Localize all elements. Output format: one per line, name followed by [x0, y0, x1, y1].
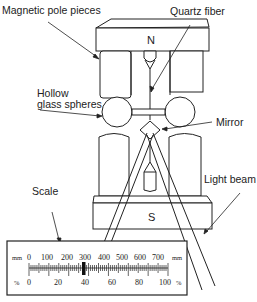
mirror-icon [140, 121, 160, 139]
mm-tick-400: 400 [98, 253, 110, 262]
scale-panel: mm mm % % 0 100 200 300 400 500 600 700 … [7, 241, 187, 295]
upper-left-pole-piece [100, 51, 131, 98]
mm-tick-300: 300 [79, 253, 91, 262]
mm-tick-100: 100 [41, 253, 53, 262]
pointer-scale [52, 212, 59, 240]
sphere-connecting-bar [132, 109, 165, 115]
label-north-pole: N [147, 34, 155, 46]
lower-right-pole-piece [169, 134, 201, 197]
mm-tick-600: 600 [134, 253, 146, 262]
light-spot-indicator [82, 262, 86, 275]
label-scale: Scale [32, 185, 58, 197]
scale-unit-mm-right: mm [172, 254, 182, 261]
lower-holder-icon [144, 162, 156, 192]
label-south-pole: S [148, 211, 155, 223]
mm-tick-700: 700 [152, 253, 164, 262]
lower-left-pole-piece [99, 134, 129, 197]
south-magnet-top-face [93, 196, 212, 203]
pct-tick-20: 20 [54, 278, 62, 287]
north-magnet-top-face [96, 19, 209, 28]
right-glass-sphere-icon [165, 97, 195, 127]
pointer-glass-spheres [40, 110, 100, 116]
scale-unit-pct-left: % [14, 279, 20, 286]
label-glass-spheres: glass spheres [37, 98, 102, 110]
label-mirror: Mirror [216, 116, 244, 128]
pointer-pole-pieces [48, 22, 97, 57]
label-magnetic-pole-pieces: Magnetic pole pieces [2, 4, 101, 16]
pct-tick-100: 100 [159, 278, 171, 287]
diagram-canvas: Magnetic pole pieces Quartz fiber Hollow… [0, 0, 257, 302]
mm-tick-500: 500 [116, 253, 128, 262]
pct-tick-60: 60 [108, 278, 116, 287]
mm-tick-0: 0 [27, 253, 31, 262]
fiber-holder-top-icon [144, 51, 156, 62]
mm-tick-200: 200 [61, 253, 73, 262]
label-quartz-fiber: Quartz fiber [170, 5, 225, 17]
upper-right-pole-piece [170, 51, 203, 92]
pct-tick-80: 80 [135, 278, 143, 287]
left-glass-sphere-icon [102, 97, 132, 127]
scale-unit-pct-right: % [176, 279, 182, 286]
label-light-beam: Light beam [204, 173, 256, 185]
pct-tick-0: 0 [27, 278, 31, 287]
pct-tick-40: 40 [81, 278, 89, 287]
scale-unit-mm-left: mm [12, 254, 22, 261]
